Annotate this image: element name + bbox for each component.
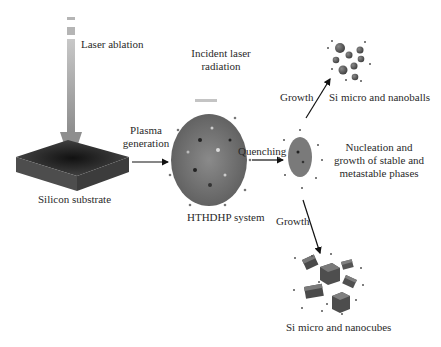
nanocubes-label: Si micro and nanocubes: [286, 321, 391, 334]
incident-laser-label: Incident laser radiation: [178, 47, 264, 73]
laser-ablation-label: Laser ablation: [81, 38, 144, 51]
growth-down-label: Growth: [276, 215, 310, 228]
plasma-plume-icon: [169, 114, 252, 206]
nucleation-label: Nucleation and growth of stable and meta…: [328, 141, 430, 180]
hthdhp-system-label: HTHDHP system: [187, 211, 265, 224]
nanoballs-icon: [327, 40, 371, 82]
growth-up-label: Growth: [280, 91, 314, 104]
silicon-substrate-icon: [16, 140, 129, 191]
silicon-substrate-label: Silicon substrate: [38, 193, 111, 206]
quenching-label: Quenching: [238, 145, 286, 158]
nanocubes-icon: [293, 253, 364, 315]
plasma-generation-label: Plasma generation: [118, 124, 174, 150]
incident-laser-icon: [195, 99, 217, 102]
nucleation-cluster-icon: [278, 129, 323, 189]
nanoballs-label: Si micro and nanoballs: [329, 91, 430, 104]
